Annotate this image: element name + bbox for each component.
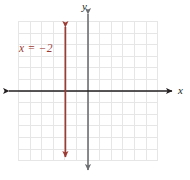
line-equation-label: x = −2 <box>19 43 53 55</box>
x-axis-label: x <box>178 85 183 96</box>
y-axis-label: y <box>82 1 87 12</box>
graph-canvas <box>0 0 190 180</box>
coordinate-plane-figure: y x x = −2 <box>0 0 190 180</box>
